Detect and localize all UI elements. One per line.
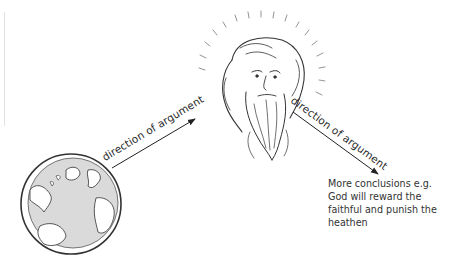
conclusion-line: faithful and punish the (328, 203, 454, 216)
conclusion-line: heathen (328, 216, 454, 229)
conclusion-line: God will reward the (328, 190, 454, 203)
arrow-god-to-conclusion (293, 112, 378, 174)
diagram-canvas: direction of argument direction of argum… (0, 0, 454, 257)
conclusion-line: More conclusions e.g. (328, 177, 454, 190)
conclusion-text: More conclusions e.g. God will reward th… (328, 177, 454, 229)
globe-icon (21, 154, 121, 254)
bearded-god-head-icon (199, 11, 325, 160)
